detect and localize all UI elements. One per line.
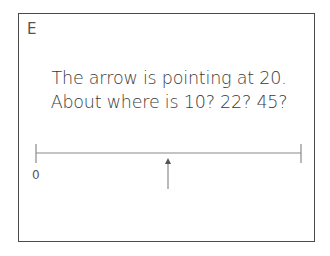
number-line [0,0,330,256]
arrow-pointer-icon [165,158,171,189]
start-label: 0 [32,168,40,182]
